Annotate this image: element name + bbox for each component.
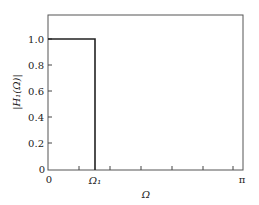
x-tick-omega1: Ω₁ [88, 175, 101, 186]
y-tick-1.0: 1.0 [28, 34, 44, 45]
x-axis-label: Ω [141, 189, 150, 200]
y-tick-0.6: 0.6 [28, 86, 44, 97]
y-tick-0.4: 0.4 [28, 112, 44, 123]
y-tick-0.8: 0.8 [28, 60, 44, 71]
y-axis-label: |H₁(Ω)| [11, 74, 23, 110]
y-ticks [48, 39, 52, 143]
y-tick-0.2: 0.2 [28, 138, 44, 149]
x-ticks [79, 166, 233, 170]
chart: 1.0 0.8 0.6 0.4 0.2 0 0 Ω₁ π Ω |H₁(Ω)| [0, 0, 259, 205]
magnitude-response-line [48, 39, 95, 170]
x-tick-0: 0 [46, 174, 52, 185]
y-tick-0: 0 [39, 164, 45, 175]
x-tick-pi: π [239, 174, 246, 185]
